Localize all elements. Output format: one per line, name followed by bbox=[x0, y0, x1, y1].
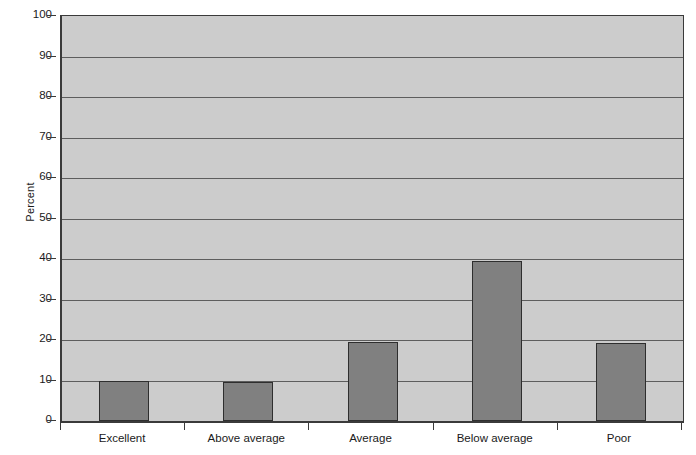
x-axis-tick-label: Above average bbox=[184, 429, 308, 447]
y-axis-tick-mark bbox=[47, 218, 56, 219]
x-axis-tick-label: Average bbox=[308, 429, 432, 447]
y-axis-tick-mark bbox=[47, 96, 56, 97]
bar-chart: Percent 0102030405060708090100 Excellent… bbox=[0, 0, 696, 455]
bar bbox=[99, 381, 149, 421]
y-axis-tick-mark bbox=[47, 56, 56, 57]
y-axis-tick-mark bbox=[47, 420, 56, 421]
y-axis-tick-mark bbox=[47, 258, 56, 259]
bar bbox=[596, 343, 646, 421]
y-axis-tick-mark bbox=[47, 15, 56, 16]
y-axis-tick-mark bbox=[47, 339, 56, 340]
bar bbox=[472, 261, 522, 421]
bars-layer bbox=[62, 16, 683, 421]
x-axis-tick-label: Below average bbox=[433, 429, 557, 447]
plot-area bbox=[60, 15, 684, 423]
x-axis-tick-label: Excellent bbox=[60, 429, 184, 447]
x-axis-tick-labels: ExcellentAbove averageAverageBelow avera… bbox=[60, 429, 682, 451]
y-axis-tick-marks bbox=[0, 15, 60, 420]
bar bbox=[348, 342, 398, 421]
y-axis-tick-mark bbox=[47, 380, 56, 381]
y-axis-tick-mark bbox=[47, 177, 56, 178]
bar bbox=[223, 382, 273, 421]
y-axis-tick-mark bbox=[47, 137, 56, 138]
y-axis-tick-mark bbox=[47, 299, 56, 300]
x-axis-tick-label: Poor bbox=[557, 429, 681, 447]
